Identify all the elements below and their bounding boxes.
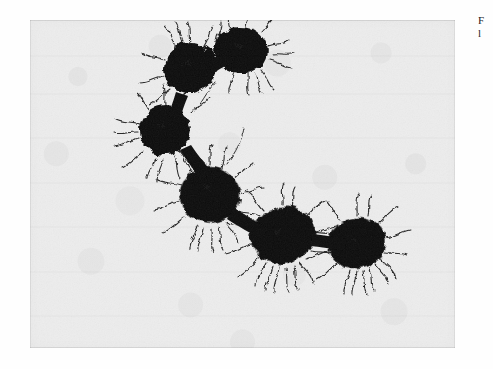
margin-caption-fragment: F l [478,14,493,40]
margin-caption-line-1: F [478,14,493,27]
margin-caption-line-2: l [478,27,493,40]
micrograph-image [30,20,455,348]
electron-micrograph-plate [30,20,455,348]
scanned-page-sheet: F l [0,0,493,369]
film-grain-overlay [30,20,455,348]
